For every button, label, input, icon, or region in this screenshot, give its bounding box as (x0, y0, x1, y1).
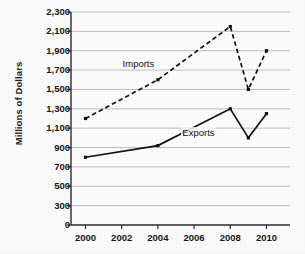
line-chart: Millions of Dollars 03005007009001,1001,… (0, 0, 305, 254)
data-point-imports-2009 (247, 88, 250, 91)
y-axis-tick-labels: 03005007009001,1001,3001,5001,7001,9002,… (24, 0, 70, 254)
series-label-imports: Imports (122, 58, 156, 69)
y-tick-label-300: 300 (24, 200, 70, 211)
y-tick-label-0: 0 (24, 219, 70, 230)
y-tick-label-1700: 1,700 (24, 64, 70, 75)
data-point-imports-2010 (265, 49, 268, 52)
data-point-imports-2000 (84, 117, 87, 120)
series-label-exports: Exports (181, 127, 215, 138)
x-tick-label-2002: 2002 (102, 232, 142, 243)
y-tick-label-900: 900 (24, 142, 70, 153)
x-tick-label-2006: 2006 (174, 232, 214, 243)
x-tick-label-2000: 2000 (65, 232, 105, 243)
data-point-exports-2009 (247, 136, 250, 139)
y-tick-label-2300: 2,300 (24, 6, 70, 17)
data-point-imports-2004 (156, 78, 159, 81)
data-point-exports-2000 (84, 156, 87, 159)
y-tick-label-1100: 1,100 (24, 122, 70, 133)
x-tick-label-2010: 2010 (246, 232, 286, 243)
x-tick-label-2008: 2008 (210, 232, 250, 243)
data-point-imports-2008 (229, 25, 232, 28)
y-tick-label-1500: 1,500 (24, 83, 70, 94)
y-tick-label-1300: 1,300 (24, 103, 70, 114)
data-point-exports-2004 (156, 144, 159, 147)
data-point-exports-2008 (229, 107, 232, 110)
data-point-exports-2010 (265, 112, 268, 115)
plot-background (71, 12, 290, 225)
y-axis-title: Millions of Dollars (13, 34, 24, 174)
y-tick-label-500: 500 (24, 180, 70, 191)
x-tick-label-2004: 2004 (138, 232, 178, 243)
y-tick-label-2100: 2,100 (24, 25, 70, 36)
y-tick-label-1900: 1,900 (24, 45, 70, 56)
y-tick-label-700: 700 (24, 161, 70, 172)
